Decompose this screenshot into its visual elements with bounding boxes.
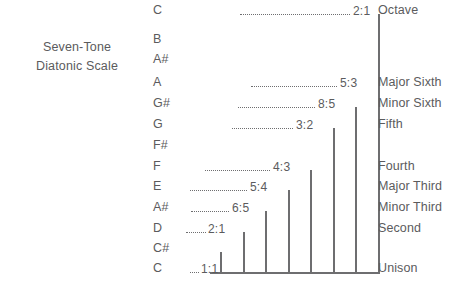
interval-label: Major Third bbox=[378, 180, 442, 193]
baseline-axis bbox=[210, 272, 380, 274]
leader-line bbox=[190, 272, 199, 273]
leader-line bbox=[232, 128, 293, 129]
interval-label: Major Sixth bbox=[378, 76, 442, 89]
interval-label: Fourth bbox=[378, 160, 415, 173]
ratio-label: 6:5 bbox=[232, 202, 249, 214]
leader-line bbox=[240, 14, 350, 15]
leader-line bbox=[251, 86, 337, 87]
bar bbox=[288, 190, 290, 272]
ratio-label: 5:3 bbox=[340, 77, 357, 89]
interval-label: Second bbox=[378, 222, 421, 235]
ratio-label: 8:5 bbox=[318, 98, 335, 110]
bar bbox=[355, 107, 357, 272]
interval-name-axis: OctaveMajor SixthMinor SixthFifthFourthM… bbox=[378, 0, 451, 288]
ratio-label: 3:2 bbox=[296, 119, 313, 131]
ratio-label: 1:1 bbox=[201, 263, 218, 275]
bar bbox=[220, 252, 222, 272]
leader-line bbox=[205, 170, 270, 171]
leader-line bbox=[238, 107, 315, 108]
interval-label: Octave bbox=[378, 4, 418, 17]
interval-label: Minor Sixth bbox=[378, 97, 442, 110]
bar bbox=[243, 232, 245, 272]
interval-label: Fifth bbox=[378, 118, 403, 131]
interval-label: Unison bbox=[378, 262, 418, 275]
leader-line bbox=[190, 190, 247, 191]
ratio-label: 2:1 bbox=[353, 5, 370, 17]
bar bbox=[265, 211, 267, 272]
leader-line bbox=[186, 232, 206, 233]
ratio-label: 4:3 bbox=[273, 161, 290, 173]
ratio-label: 2:1 bbox=[208, 223, 225, 235]
interval-label: Minor Third bbox=[378, 201, 442, 214]
bar bbox=[310, 170, 312, 272]
ratio-label: 5:4 bbox=[250, 181, 267, 193]
seven-tone-diatonic-scale-figure: Seven-Tone Diatonic Scale CBA#AG#GF#FEA#… bbox=[0, 0, 451, 288]
bar bbox=[333, 128, 335, 272]
leader-line bbox=[191, 211, 229, 212]
